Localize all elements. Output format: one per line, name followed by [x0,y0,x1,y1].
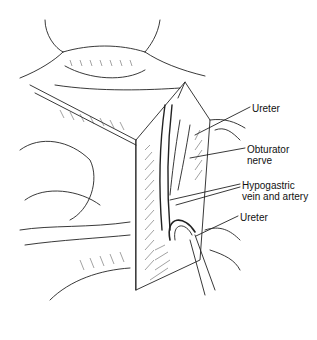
anatomy-drawing [0,0,317,340]
label-hypogastric-line2: vein and artery [242,191,308,202]
label-ureter-lower: Ureter [240,212,268,223]
label-obturator-nerve: Obturator nerve [247,144,289,166]
label-obturator-line1: Obturator [247,144,289,155]
surgical-illustration: Ureter Obturator nerve Hypogastric vein … [0,0,317,340]
label-obturator-line2: nerve [247,155,289,166]
label-hypogastric-line1: Hypogastric [242,180,308,191]
label-hypogastric: Hypogastric vein and artery [242,180,308,202]
label-ureter-upper: Ureter [252,103,280,114]
